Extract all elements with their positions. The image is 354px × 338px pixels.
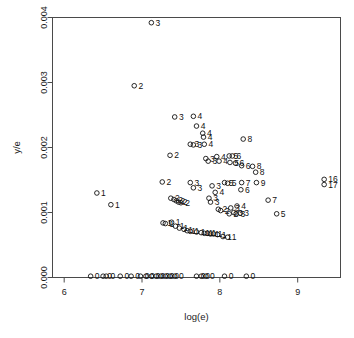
data-point-label: 6 bbox=[245, 185, 250, 195]
y-axis-tick-label: 0.001 bbox=[39, 201, 49, 224]
data-point: 1 bbox=[109, 200, 121, 210]
data-point-marker bbox=[222, 180, 227, 185]
data-point-label: 0 bbox=[251, 271, 256, 281]
data-point-label: 2 bbox=[174, 150, 179, 160]
data-point-label: 0 bbox=[210, 271, 215, 281]
data-points-layer: 3234444334823344565668816172333455796122… bbox=[88, 18, 338, 282]
data-point-label: 0 bbox=[150, 271, 155, 281]
y-axis-tick-label: 0.000 bbox=[39, 266, 49, 289]
data-point-label: 0 bbox=[179, 271, 184, 281]
data-point: 9 bbox=[254, 178, 265, 188]
data-point: 5 bbox=[222, 178, 234, 188]
data-point: 8 bbox=[253, 167, 265, 177]
data-point-marker bbox=[188, 180, 193, 185]
data-point-label: 4 bbox=[208, 139, 213, 149]
data-point: 1 bbox=[95, 188, 107, 198]
data-point-label: 8 bbox=[247, 134, 252, 144]
data-point-marker bbox=[322, 182, 327, 187]
data-point: 4 bbox=[202, 139, 214, 149]
data-point: 0 bbox=[88, 271, 100, 281]
data-point: 0 bbox=[244, 271, 256, 281]
data-point-label: 3 bbox=[156, 18, 161, 28]
data-point-label: 5 bbox=[281, 209, 286, 219]
data-point: 3 bbox=[208, 197, 220, 207]
data-point-marker bbox=[228, 160, 233, 165]
data-point-label: 0 bbox=[95, 271, 100, 281]
data-point-label: 8 bbox=[260, 167, 265, 177]
data-point-marker bbox=[322, 177, 327, 182]
data-point-marker bbox=[250, 164, 255, 169]
data-point-label: 1 bbox=[115, 200, 120, 210]
y-axis-tick-label: 0.004 bbox=[39, 6, 49, 29]
data-point-marker bbox=[172, 115, 177, 120]
data-point-label: 0 bbox=[110, 271, 115, 281]
data-point-label: 5 bbox=[229, 178, 234, 188]
data-point-marker bbox=[274, 212, 279, 217]
x-axis-tick-label: 7 bbox=[140, 287, 145, 297]
data-point-label: 2 bbox=[138, 81, 143, 91]
data-point-label: 1 bbox=[232, 232, 237, 242]
data-point-label: 3 bbox=[179, 112, 184, 122]
data-point-label: 2 bbox=[166, 177, 171, 187]
data-point: 3 bbox=[172, 112, 184, 122]
data-point: 7 bbox=[266, 195, 278, 205]
data-point-marker bbox=[149, 20, 154, 25]
data-point-marker bbox=[239, 180, 244, 185]
data-point-label: 1 bbox=[101, 188, 106, 198]
data-point-label: 3 bbox=[198, 183, 203, 193]
data-point: 4 bbox=[194, 121, 206, 131]
data-point-marker bbox=[202, 142, 207, 147]
plot-canvas: 67890.0000.0010.0020.0030.004 3234444334… bbox=[0, 0, 354, 338]
data-point-label: 9 bbox=[261, 178, 266, 188]
data-point-marker bbox=[194, 124, 199, 129]
data-point: 2 bbox=[168, 150, 180, 160]
data-point-label: 3 bbox=[215, 197, 220, 207]
data-point: 5 bbox=[274, 209, 286, 219]
data-point-label: 4 bbox=[219, 187, 224, 197]
x-axis-tick-label: 9 bbox=[295, 287, 300, 297]
data-point-marker bbox=[132, 83, 137, 88]
data-point: 2 bbox=[132, 81, 144, 91]
data-point-marker bbox=[210, 184, 215, 189]
data-point: 17 bbox=[322, 180, 338, 190]
data-point-marker bbox=[253, 170, 258, 175]
data-point-marker bbox=[168, 153, 173, 158]
data-point-label: 4 bbox=[198, 111, 203, 121]
data-point-label: 17 bbox=[328, 180, 338, 190]
y-axis-title: y/e bbox=[11, 141, 22, 154]
data-point: 6 bbox=[239, 185, 251, 195]
data-point: 0 bbox=[222, 271, 234, 281]
data-point-marker bbox=[239, 187, 244, 192]
y-axis-tick-label: 0.002 bbox=[39, 136, 49, 159]
data-point: 4 bbox=[191, 111, 203, 121]
data-point-label: 4 bbox=[201, 121, 206, 131]
data-point-label: 3 bbox=[244, 208, 249, 218]
data-point: 3 bbox=[149, 18, 161, 28]
data-point-marker bbox=[191, 114, 196, 119]
data-point-marker bbox=[266, 198, 271, 203]
data-point-label: 7 bbox=[272, 195, 277, 205]
x-axis-tick-label: 6 bbox=[62, 287, 67, 297]
data-point-marker bbox=[208, 200, 213, 205]
axis-titles-layer: log(e)y/e bbox=[11, 141, 209, 322]
axes-layer: 67890.0000.0010.0020.0030.004 bbox=[39, 6, 341, 296]
data-point: 0 bbox=[118, 271, 130, 281]
data-point-marker bbox=[160, 180, 165, 185]
data-point: 8 bbox=[241, 134, 253, 144]
data-point-marker bbox=[254, 180, 259, 185]
scatter-plot-figure: 67890.0000.0010.0020.0030.004 3234444334… bbox=[0, 0, 354, 338]
data-point-marker bbox=[241, 137, 246, 142]
data-point: 2 bbox=[160, 177, 172, 187]
data-point-label: 0 bbox=[229, 271, 234, 281]
data-point-marker bbox=[191, 186, 196, 191]
data-point-marker bbox=[95, 191, 100, 196]
y-axis-tick-label: 0.003 bbox=[39, 71, 49, 94]
x-axis-title: log(e) bbox=[184, 311, 208, 322]
data-point: 3 bbox=[191, 183, 203, 193]
data-point-label: 5 bbox=[234, 158, 239, 168]
data-point-label: 2 bbox=[233, 209, 238, 219]
x-axis-tick-label: 8 bbox=[217, 287, 222, 297]
data-point-marker bbox=[109, 202, 114, 207]
data-point-label: 2 bbox=[185, 198, 190, 208]
